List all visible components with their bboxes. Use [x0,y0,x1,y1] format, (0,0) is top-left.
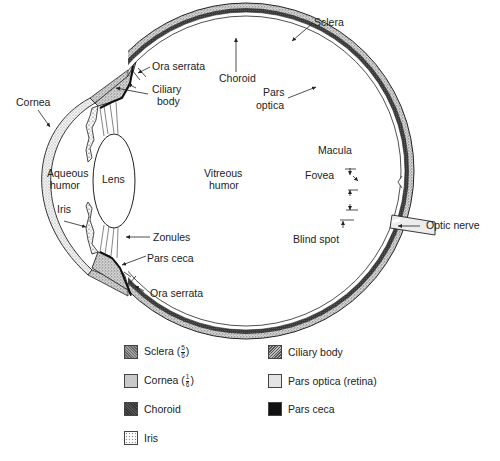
eye-diagram: Sclera Choroid Pars optica Ora serrata C… [0,0,500,461]
label-aqueous-2: humor [50,179,80,191]
legend-label: Choroid [144,403,181,415]
label-fovea: Fovea [305,169,334,181]
legend-label: Ciliary body [288,346,343,358]
legend-item-iris: Iris [124,431,158,445]
legend-label: Sclera (56) [144,345,189,359]
label-ciliary-body-2: body [157,95,181,107]
label-optic-nerve: Optic nerve [426,219,480,231]
legend-item-ciliary-body: Ciliary body [268,345,343,359]
label-macula: Macula [318,144,352,156]
label-blind-spot: Blind spot [293,233,339,245]
label-iris: Iris [57,203,71,215]
label-vitreous-1: Vitreous [204,167,242,179]
legend-label: Pars optica (retina) [288,375,377,387]
label-vitreous-2: humor [209,179,239,191]
label-lens: Lens [102,173,125,185]
label-choroid: Choroid [219,72,256,84]
label-aqueous-1: Aqueous [47,167,88,179]
ciliary-body-swatch-icon [268,345,282,359]
legend-label: Iris [144,432,158,444]
label-ciliary-body-1: Ciliary [152,83,182,95]
label-pars-optica-2: optica [256,99,284,111]
cornea-swatch-icon [124,374,138,388]
legend-item-sclera: Sclera (56) [124,345,189,359]
pars-ceca-swatch-icon [268,402,282,416]
choroid-swatch-icon [124,402,138,416]
legend-label: Cornea (16) [144,374,194,388]
label-ora-serrata-bottom: Ora serrata [150,287,203,299]
label-cornea: Cornea [16,96,51,108]
legend-item-choroid: Choroid [124,402,181,416]
label-ora-serrata-top: Ora serrata [152,60,205,72]
legend-label: Pars ceca [288,403,335,415]
label-pars-ceca: Pars ceca [147,252,194,264]
label-zonules: Zonules [153,231,190,243]
legend-item-cornea: Cornea (16) [124,374,194,388]
label-sclera: Sclera [314,16,344,28]
label-pars-optica-1: Pars [263,86,285,98]
iris-swatch-icon [124,431,138,445]
sclera-swatch-icon [124,345,138,359]
pars-optica-swatch-icon [268,374,282,388]
legend-item-pars-optica: Pars optica (retina) [268,374,377,388]
legend-item-pars-ceca: Pars ceca [268,402,335,416]
